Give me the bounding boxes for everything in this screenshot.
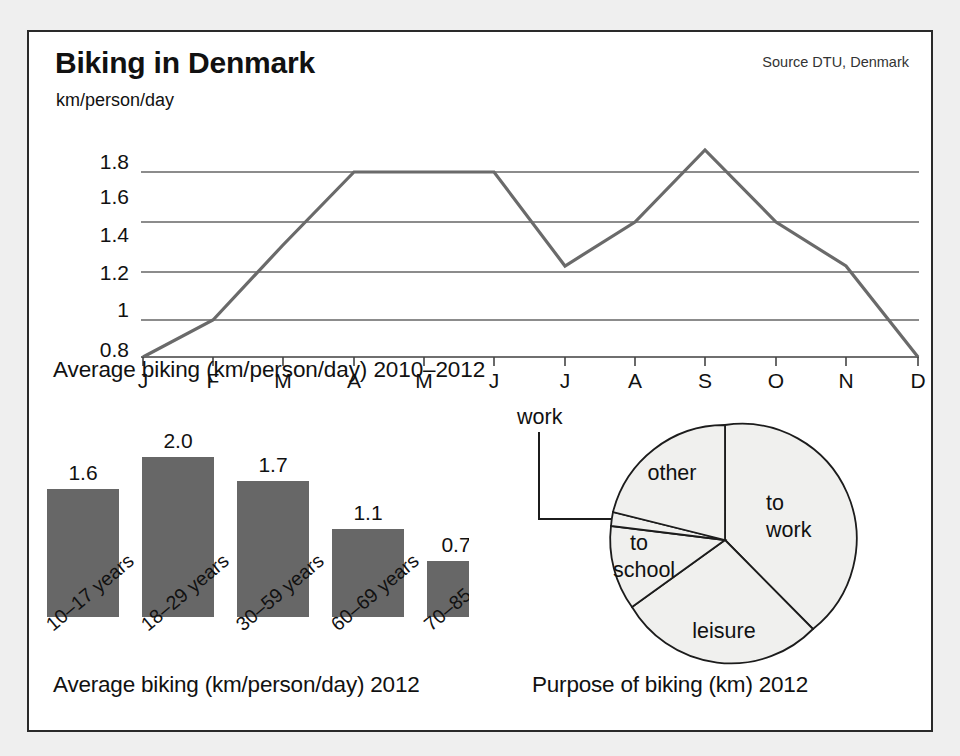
pie-label-to-work-1: to xyxy=(766,491,784,515)
bar-chart-caption: Average biking (km/person/day) 2012 xyxy=(53,672,420,698)
bar-value-label: 1.1 xyxy=(353,501,382,524)
bar-chart: 1.6 2.0 1.7 1.1 0.7 10–17 years 18–29 ye… xyxy=(29,400,469,665)
bar-value-label: 0.7 xyxy=(441,533,469,556)
xtick-label: O xyxy=(768,369,784,392)
work-callout-leader xyxy=(539,432,612,519)
pie-chart: other to work to school leisure work xyxy=(469,400,931,665)
xtick-label: S xyxy=(698,369,712,392)
infographic-poster: Biking in Denmark Source DTU, Denmark km… xyxy=(27,30,933,732)
xtick-label: A xyxy=(628,369,642,392)
page-title: Biking in Denmark xyxy=(55,46,315,80)
bar-value-label: 1.6 xyxy=(68,461,97,484)
xtick-label: J xyxy=(489,369,500,392)
line-chart-gridlines xyxy=(141,172,919,357)
ytick-label: 1.4 xyxy=(100,223,130,246)
pie-label-to-school-2: school xyxy=(613,558,675,582)
ytick-label: 1.8 xyxy=(100,150,129,173)
ytick-label: 1.2 xyxy=(100,261,129,284)
line-chart-caption: Average biking (km/person/day) 2010–2012 xyxy=(53,357,485,383)
pie-label-to-work-2: work xyxy=(765,518,812,542)
xtick-label: D xyxy=(910,369,925,392)
line-series-biking xyxy=(143,150,918,357)
pie-chart-caption: Purpose of biking (km) 2012 xyxy=(532,672,808,698)
line-chart: 1.8 1.6 1.4 1.2 1 0.8 xyxy=(29,112,931,367)
bar-series-age xyxy=(47,457,469,617)
ytick-label: 1 xyxy=(117,298,129,321)
ytick-label: 1.6 xyxy=(100,185,129,208)
xtick-label: N xyxy=(838,369,853,392)
pie-label-to-school-1: to xyxy=(630,531,648,555)
pie-label-other: other xyxy=(647,461,696,485)
line-chart-unit-label: km/person/day xyxy=(56,90,174,111)
bar-value-label: 2.0 xyxy=(163,429,192,452)
bar-value-label: 1.7 xyxy=(258,453,287,476)
pie-label-leisure: leisure xyxy=(692,619,755,643)
xtick-label: J xyxy=(560,369,571,392)
pie-label-work: work xyxy=(516,405,563,429)
source-attribution: Source DTU, Denmark xyxy=(762,54,909,70)
